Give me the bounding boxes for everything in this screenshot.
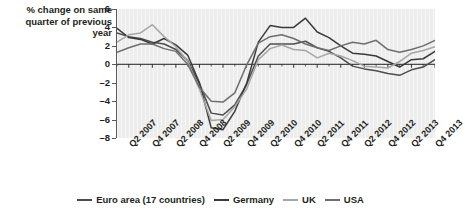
y-axis-tick-label: 0 bbox=[88, 58, 110, 69]
legend-label: Euro area (17 countries) bbox=[96, 194, 205, 205]
y-axis-tick-label: –2 bbox=[88, 77, 110, 88]
y-axis-tick-label: –4 bbox=[88, 95, 110, 106]
legend-swatch-icon bbox=[214, 199, 229, 201]
legend-label: Germany bbox=[233, 194, 274, 205]
legend-swatch-icon bbox=[325, 199, 340, 201]
legend-item[interactable]: Euro area (17 countries) bbox=[77, 194, 205, 205]
y-axis-tick bbox=[112, 27, 116, 28]
chart-legend: Euro area (17 countries)GermanyUKUSA bbox=[0, 194, 441, 205]
y-axis-tick bbox=[112, 138, 116, 139]
legend-label: UK bbox=[302, 194, 316, 205]
y-axis-tick bbox=[112, 83, 116, 84]
series-line bbox=[117, 33, 435, 115]
legend-label: USA bbox=[344, 194, 364, 205]
legend-item[interactable]: UK bbox=[283, 194, 316, 205]
y-axis-tick-label: –6 bbox=[88, 114, 110, 125]
y-axis-tick bbox=[112, 120, 116, 121]
y-axis-tick-label: 6 bbox=[88, 3, 110, 14]
y-axis-tick bbox=[112, 101, 116, 102]
y-axis-tick-label: –8 bbox=[88, 132, 110, 143]
y-axis-tick bbox=[112, 9, 116, 10]
legend-item[interactable]: Germany bbox=[214, 194, 274, 205]
y-axis-tick-label: 2 bbox=[88, 40, 110, 51]
legend-item[interactable]: USA bbox=[325, 194, 364, 205]
y-axis-tick-label: 4 bbox=[88, 21, 110, 32]
y-axis-tick bbox=[112, 64, 116, 65]
legend-swatch-icon bbox=[283, 199, 298, 201]
y-axis-tick bbox=[112, 46, 116, 47]
legend-swatch-icon bbox=[77, 199, 92, 201]
